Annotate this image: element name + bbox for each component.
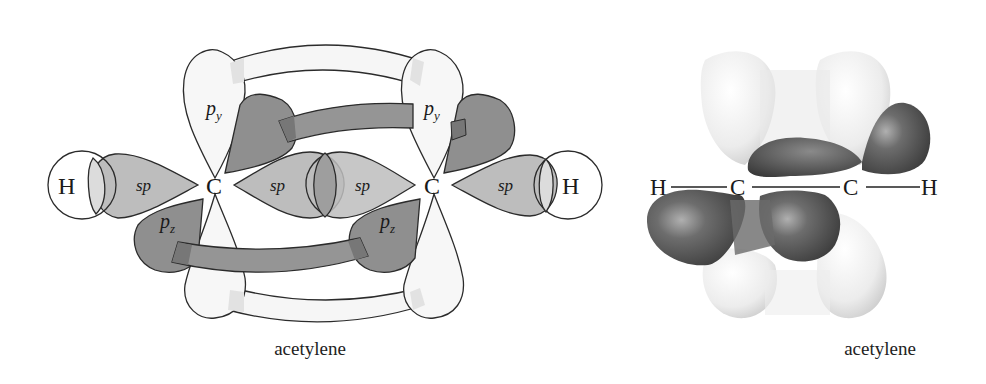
atom-3d-c-right: C (843, 175, 858, 200)
sp-label-3: sp (355, 176, 370, 195)
sp-label-4: sp (498, 176, 513, 195)
atom-3d-c-left: C (730, 175, 745, 200)
pi-band-top-light (228, 45, 425, 86)
caption-left: acetylene (274, 338, 346, 360)
atom-label-h-right: H (562, 173, 579, 199)
pi-band-bottom-light (228, 288, 425, 322)
right-3d-model: H C C H (647, 51, 938, 318)
atom-3d-h-right: H (921, 175, 938, 200)
sp-label-1: sp (136, 176, 151, 195)
left-orbital-diagram (48, 45, 602, 322)
atom-label-h-left: H (58, 173, 75, 199)
pi-band-top-dark (279, 103, 413, 142)
sp-label-2: sp (270, 176, 285, 195)
caption-right: acetylene (844, 338, 916, 360)
dark-bridge-bottom (730, 200, 775, 255)
atom-3d-h-left: H (650, 175, 667, 200)
atom-label-c-left: C (206, 173, 222, 199)
acetylene-orbital-diagram: H C C H sp sp sp sp py py pz pz H C (0, 0, 986, 384)
atom-label-c-right: C (424, 173, 440, 199)
